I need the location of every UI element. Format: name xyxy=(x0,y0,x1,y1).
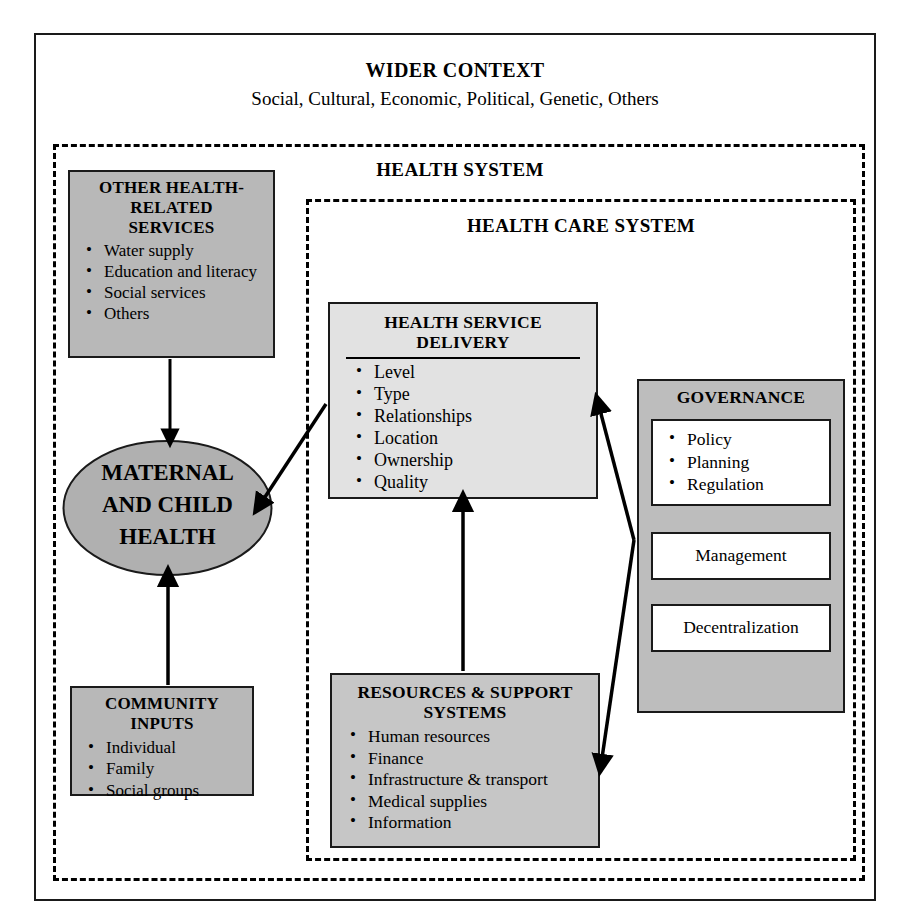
title-line-1: COMMUNITY xyxy=(105,694,219,713)
list-item: Quality xyxy=(356,472,586,494)
list-item: Relationships xyxy=(356,406,586,428)
title-line-2: RELATED xyxy=(130,198,212,217)
list-item: Finance xyxy=(350,748,590,770)
title-line-2: SYSTEMS xyxy=(423,702,506,722)
box-title-health-service-delivery: HEALTH SERVICE DELIVERY xyxy=(340,312,586,353)
list-item: Type xyxy=(356,384,586,406)
list-item: Others xyxy=(86,304,265,325)
governance-subbox-management: Management xyxy=(651,532,831,580)
list-community-inputs: Individual Family Social groups xyxy=(80,737,244,801)
list-item: Social services xyxy=(86,283,265,304)
wider-context-heading: WIDER CONTEXT Social, Cultural, Economic… xyxy=(60,58,850,111)
list-resources-and-support-systems: Human resources Finance Infrastructure &… xyxy=(340,726,590,834)
box-community-inputs: COMMUNITY INPUTS Individual Family Socia… xyxy=(70,686,254,796)
box-title-governance: GOVERNANCE xyxy=(651,387,831,407)
list-item: Location xyxy=(356,428,586,450)
list-item: Planning xyxy=(669,451,829,473)
title-line-3: SERVICES xyxy=(128,218,214,237)
wider-context-subtitle: Social, Cultural, Economic, Political, G… xyxy=(60,87,850,111)
box-governance: GOVERNANCE Policy Planning Regulation Ma… xyxy=(637,379,845,713)
list-item: Education and literacy xyxy=(86,262,265,283)
health-care-system-label: HEALTH CARE SYSTEM xyxy=(310,214,852,238)
list-governance-policy: Policy Planning Regulation xyxy=(653,428,829,495)
list-item: Information xyxy=(350,812,590,834)
box-title-community-inputs: COMMUNITY INPUTS xyxy=(80,694,244,734)
list-item: Medical supplies xyxy=(350,791,590,813)
list-item: Human resources xyxy=(350,726,590,748)
diagram-canvas: WIDER CONTEXT Social, Cultural, Economic… xyxy=(0,0,906,922)
list-item: Infrastructure & transport xyxy=(350,769,590,791)
governance-subbox-decentralization: Decentralization xyxy=(651,604,831,652)
box-title-other-health-related-services: OTHER HEALTH- RELATED SERVICES xyxy=(78,178,265,238)
list-item: Water supply xyxy=(86,241,265,262)
title-line-1: HEALTH SERVICE xyxy=(384,312,542,332)
list-item: Social groups xyxy=(88,780,244,801)
list-item: Regulation xyxy=(669,473,829,495)
title-divider xyxy=(346,357,580,359)
list-item: Family xyxy=(88,758,244,779)
list-item: Policy xyxy=(669,428,829,450)
list-other-health-related-services: Water supply Education and literacy Soci… xyxy=(78,241,265,325)
box-resources-and-support-systems: RESOURCES & SUPPORT SYSTEMS Human resour… xyxy=(330,673,600,848)
box-title-resources-and-support-systems: RESOURCES & SUPPORT SYSTEMS xyxy=(340,682,590,723)
wider-context-title: WIDER CONTEXT xyxy=(60,58,850,84)
title-line-2: DELIVERY xyxy=(416,332,509,352)
title-line-2: INPUTS xyxy=(130,714,194,733)
title-line-1: OTHER HEALTH- xyxy=(99,178,244,197)
list-item: Level xyxy=(356,362,586,384)
box-health-service-delivery: HEALTH SERVICE DELIVERY Level Type Relat… xyxy=(328,302,598,499)
list-item: Ownership xyxy=(356,450,586,472)
list-health-service-delivery: Level Type Relationships Location Owners… xyxy=(340,362,586,494)
governance-subbox-policy-planning-regulation: Policy Planning Regulation xyxy=(651,419,831,505)
title-line-1: RESOURCES & SUPPORT xyxy=(357,682,572,702)
list-item: Individual xyxy=(88,737,244,758)
box-other-health-related-services: OTHER HEALTH- RELATED SERVICES Water sup… xyxy=(68,170,275,358)
